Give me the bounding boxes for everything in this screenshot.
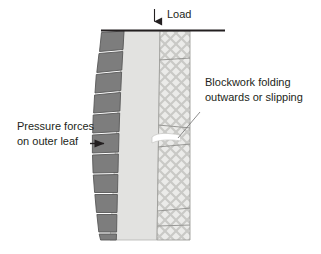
brick bbox=[97, 215, 117, 233]
load-arrow-group: Load bbox=[155, 8, 192, 22]
brick bbox=[93, 154, 119, 173]
brick bbox=[97, 52, 123, 73]
pressure-callout-group: Pressure forces on outer leaf bbox=[17, 120, 104, 147]
brick bbox=[94, 93, 121, 114]
blockwork-label-line2: outwards or slipping bbox=[205, 91, 303, 103]
blockwork-label-line1: Blockwork folding bbox=[205, 76, 291, 88]
blockwork-callout-group: Blockwork folding outwards or slipping bbox=[178, 76, 303, 138]
brick bbox=[99, 234, 116, 240]
brick bbox=[95, 195, 118, 213]
diagram-canvas: Load Blockwork folding outwards or slipp… bbox=[0, 0, 321, 254]
brick bbox=[93, 175, 118, 193]
load-label: Load bbox=[167, 8, 191, 20]
brick bbox=[100, 31, 125, 52]
pressure-label-line2: on outer leaf bbox=[17, 135, 79, 147]
pressure-label-line1: Pressure forces bbox=[17, 120, 95, 132]
brick bbox=[95, 72, 122, 93]
wall-failure-diagram: Load Blockwork folding outwards or slipp… bbox=[0, 0, 321, 254]
brick bbox=[93, 113, 120, 133]
